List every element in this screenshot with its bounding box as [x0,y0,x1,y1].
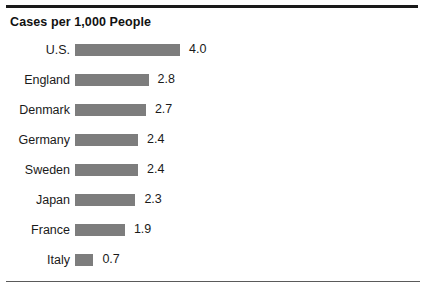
bar [75,134,138,146]
bar-category-label: Japan [0,193,70,207]
bar-category-label: Italy [0,253,70,267]
bar-category-label: Germany [0,133,70,147]
bar-category-label: England [0,73,70,87]
bar-row: Japan2.3 [0,191,423,221]
bar-value-label: 4.0 [189,42,206,56]
bar-value-label: 2.4 [147,162,164,176]
bar-row: Germany2.4 [0,131,423,161]
bar [75,254,93,266]
bar-value-label: 1.9 [134,222,151,236]
bar-value-label: 2.8 [158,72,175,86]
bar-track [75,104,146,116]
bar [75,194,135,206]
bar-category-label: France [0,223,70,237]
bar-track [75,134,138,146]
bar-category-label: U.S. [0,43,70,57]
bar [75,224,125,236]
bar-row: England2.8 [0,71,423,101]
bar [75,74,149,86]
bar-row: Denmark2.7 [0,101,423,131]
top-rule-divider [6,5,418,8]
bar-track [75,164,138,176]
bar-row: Italy0.7 [0,251,423,281]
bar [75,104,146,116]
bar-rows-container: U.S.4.0England2.8Denmark2.7Germany2.4Swe… [0,41,423,281]
bar-category-label: Denmark [0,103,70,117]
bar-track [75,74,149,86]
bar-category-label: Sweden [0,163,70,177]
bar-row: U.S.4.0 [0,41,423,71]
bar [75,164,138,176]
bar-value-label: 0.7 [102,252,119,266]
bar-row: France1.9 [0,221,423,251]
bar [75,44,180,56]
bar-track [75,44,180,56]
bar-value-label: 2.3 [144,192,161,206]
bar-chart-figure: Cases per 1,000 People U.S.4.0England2.8… [0,0,423,294]
bottom-rule-divider [6,281,420,282]
bar-track [75,194,135,206]
chart-title: Cases per 1,000 People [10,15,151,29]
bar-value-label: 2.4 [147,132,164,146]
bar-value-label: 2.7 [155,102,172,116]
bar-row: Sweden2.4 [0,161,423,191]
bar-track [75,224,125,236]
bar-track [75,254,93,266]
